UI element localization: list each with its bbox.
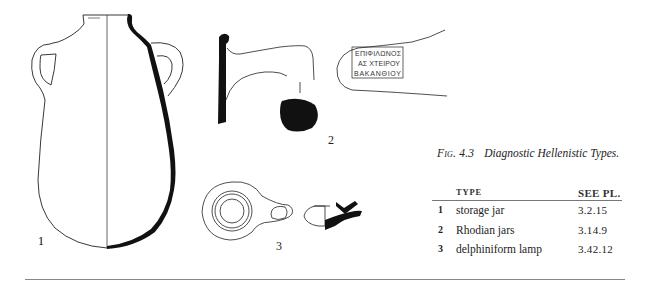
- drawing-label-3: 3: [276, 239, 282, 253]
- storage-jar-section: [107, 14, 176, 249]
- figure-number: Fig. 4.3: [437, 147, 474, 159]
- row-see-pl: 3.42.12: [578, 243, 613, 255]
- figure-title: Diagnostic Hellenistic Types.: [484, 147, 619, 159]
- row-type: delphiniform lamp: [456, 243, 542, 255]
- row-see-pl: 3.2.15: [578, 204, 607, 216]
- table-header: TYPE SEE PL.: [430, 184, 630, 200]
- rhodian-jar-handle-drawing: [218, 34, 318, 132]
- figure-caption: Fig. 4.3Diagnostic Hellenistic Types.: [437, 147, 619, 159]
- storage-jar-drawing: [32, 15, 183, 248]
- row-type: storage jar: [456, 204, 504, 216]
- header-type: TYPE: [456, 187, 482, 197]
- table-row: 2 Rhodian jars 3.14.9: [430, 221, 630, 241]
- row-number: 1: [438, 204, 443, 215]
- table-row: 1 storage jar 3.2.15: [430, 201, 630, 221]
- row-number: 3: [438, 243, 443, 254]
- row-number: 2: [438, 224, 443, 235]
- stamp-line-2: ΑΣ ΧΤΕΙΡΟΥ: [358, 60, 400, 67]
- row-type: Rhodian jars: [456, 224, 514, 236]
- types-table: TYPE SEE PL. 1 storage jar 3.2.15 2 Rhod…: [430, 184, 630, 260]
- page-bottom-rule: [25, 279, 625, 280]
- row-see-pl: 3.14.9: [578, 224, 607, 236]
- table-row: 3 delphiniform lamp 3.42.12: [430, 240, 630, 260]
- header-see-pl: SEE PL.: [578, 187, 620, 199]
- stamp-line-3: ΒΑΚΑΝΘΙΟΥ: [354, 70, 401, 77]
- stamp-line-1: ΕΠΙΦΙΛΩΝΟΣ: [355, 50, 402, 57]
- lamp-profile-drawing: [304, 201, 362, 230]
- drawing-label-1: 1: [38, 234, 44, 248]
- drawing-label-2: 2: [328, 133, 334, 147]
- lamp-top-view-drawing: [202, 182, 293, 240]
